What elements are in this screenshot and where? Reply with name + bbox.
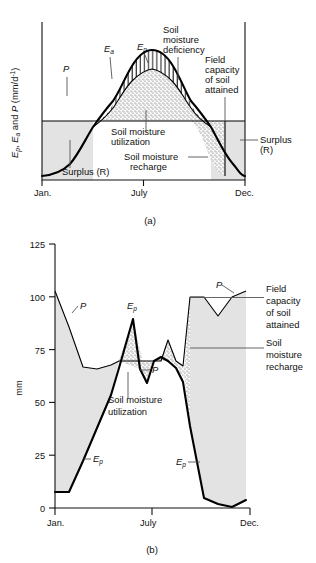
panel-a-chart: Jan. July Dec. Ep, Ea and P (mm/d-1) P E…	[0, 0, 316, 240]
svg-text:Soil: Soil	[266, 337, 282, 348]
svg-text:(R): (R)	[260, 144, 273, 155]
panel-b-xlabel-jan: Jan.	[47, 518, 64, 528]
svg-text:capacity: capacity	[266, 295, 301, 306]
figure-soil-moisture-budget: Jan. July Dec. Ep, Ea and P (mm/d-1) P E…	[0, 0, 316, 563]
panel-b-label-utilization: Soil moisture utilization	[108, 394, 162, 417]
panel-b-label-recharge: Soil moisture recharge	[266, 337, 303, 372]
panel-b-ylabel-50: 50	[35, 398, 45, 408]
panel-a-label-surplus-right: Surplus (R)	[260, 134, 292, 155]
panel-b-label-ep-top: Ep	[127, 300, 137, 313]
svg-text:attained: attained	[266, 319, 299, 330]
panel-a-leader-ea	[110, 57, 112, 79]
panel-b-ylabel-25: 25	[35, 451, 45, 461]
panel-a-label-ea: Ea	[104, 43, 114, 55]
svg-text:Ep, Ea and P (mm/d-1): Ep, Ea and P (mm/d-1)	[9, 68, 22, 158]
panel-a-ylabel: Ep, Ea and P (mm/d-1)	[9, 68, 22, 158]
panel-b-chart: 125 100 75 50 25 0 mm Jan. July Dec. P E…	[0, 240, 316, 563]
panel-a-label-field-capacity: Field capacity of soil attained	[205, 54, 240, 95]
panel-a-label-p: P	[63, 63, 70, 74]
panel-b-xlabel-dec: Dec.	[240, 518, 259, 528]
panel-b-xlabel-july: July	[140, 518, 157, 528]
panel-a-xlabel-dec: Dec.	[235, 188, 254, 198]
panel-a-label-surplus-left: Surplus (R)	[62, 166, 109, 177]
svg-text:moisture: moisture	[266, 349, 302, 360]
panel-a-label-soil-moisture-deficiency: Soil moisture deficiency	[163, 24, 205, 55]
panel-b-ylabel-0: 0	[40, 504, 45, 514]
panel-b-leader-p-right	[222, 285, 234, 293]
svg-text:mm: mm	[14, 380, 24, 396]
svg-text:utilization: utilization	[111, 136, 150, 147]
panel-b-label-ep-right: Ep	[176, 456, 186, 469]
svg-text:attained: attained	[205, 84, 238, 95]
svg-text:recharge: recharge	[130, 161, 167, 172]
panel-b-ylabel-title: mm	[14, 380, 24, 396]
panel-a-xlabel-jan: Jan.	[34, 188, 51, 198]
svg-text:Field: Field	[266, 283, 286, 294]
panel-a-caption: (a)	[144, 215, 156, 226]
panel-b-label-field-capacity: Field capacity of soil attained	[266, 283, 301, 330]
panel-b-caption: (b)	[146, 544, 158, 555]
panel-a-label-ep: Ep	[137, 41, 147, 54]
panel-a-utilization-region	[93, 69, 211, 121]
panel-b-label-p-right: P	[216, 279, 223, 290]
panel-b-label-p-left: P	[80, 300, 87, 311]
svg-text:deficiency: deficiency	[163, 44, 205, 55]
panel-b-ylabel-75: 75	[35, 346, 45, 356]
svg-text:Soil moisture: Soil moisture	[108, 394, 162, 405]
panel-a-xlabel-july: July	[131, 188, 148, 198]
panel-b-leader-p-left	[72, 306, 78, 313]
panel-b-ylabel-100: 100	[30, 293, 45, 303]
svg-text:utilization: utilization	[108, 406, 147, 417]
panel-b-ylabel-125: 125	[30, 240, 45, 250]
panel-b-label-p-mid: P	[152, 364, 159, 375]
svg-text:recharge: recharge	[266, 361, 303, 372]
svg-text:of soil: of soil	[266, 307, 291, 318]
panel-b-label-ep-left: Ep	[93, 453, 103, 466]
